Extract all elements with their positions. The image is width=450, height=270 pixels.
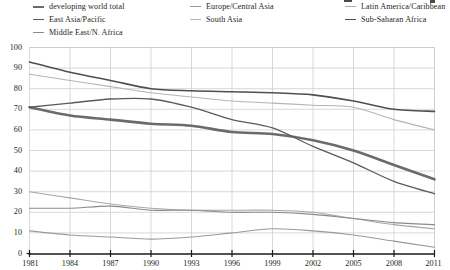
legend-item[interactable]: Latin America/Caribbean	[345, 0, 445, 13]
legend-swatch-icon	[33, 32, 44, 33]
legend-column-1: developing world total East Asia/Pacific…	[33, 0, 124, 39]
y-tick-label: 10	[2, 229, 22, 237]
legend-item-label: Sub-Saharan Africa	[361, 15, 426, 24]
y-tick-label: 100	[2, 44, 22, 52]
x-tick-label: 2005	[337, 260, 371, 268]
legend-item-label: Middle East/N. Africa	[49, 28, 123, 37]
line-chart: 1009080706050403020100 19811984198719901…	[0, 42, 443, 270]
y-tick-label: 0	[2, 250, 22, 258]
x-tick-label: 1990	[134, 260, 168, 268]
x-tick-label: 1993	[175, 260, 209, 268]
legend-item[interactable]: Middle East/N. Africa	[33, 26, 124, 39]
legend-item-label: Latin America/Caribbean	[361, 2, 445, 11]
x-tick-label: 1981	[14, 260, 48, 268]
y-tick-label: 30	[2, 188, 22, 196]
legend-swatch-icon	[33, 6, 44, 8]
legend-item-label: East Asia/Pacific	[49, 15, 106, 24]
x-tick-label: 1984	[53, 260, 87, 268]
legend-swatch-icon	[33, 19, 44, 20]
x-tick-label: 2008	[377, 260, 411, 268]
x-tick-label: 2002	[296, 260, 330, 268]
y-tick-label: 60	[2, 126, 22, 134]
x-tick-label: 1987	[94, 260, 128, 268]
chart-legend: developing world total East Asia/Pacific…	[0, 0, 443, 42]
legend-swatch-icon	[345, 19, 356, 20]
legend-item[interactable]: South Asia	[190, 13, 274, 26]
legend-item-label: South Asia	[206, 15, 242, 24]
plot-area	[0, 42, 443, 270]
y-tick-label: 20	[2, 208, 22, 216]
legend-swatch-icon	[345, 6, 356, 7]
y-tick-label: 80	[2, 85, 22, 93]
legend-item[interactable]: Sub-Saharan Africa	[345, 13, 445, 26]
legend-item[interactable]: East Asia/Pacific	[33, 13, 124, 26]
x-tick-label: 1999	[256, 260, 290, 268]
y-tick-label: 40	[2, 167, 22, 175]
y-tick-label: 70	[2, 105, 22, 113]
legend-swatch-icon	[190, 6, 201, 7]
legend-column-3: Latin America/Caribbean Sub-Saharan Afri…	[345, 0, 445, 26]
legend-item-label: Europe/Central Asia	[206, 2, 274, 11]
legend-item[interactable]: Europe/Central Asia	[190, 0, 274, 13]
x-tick-label: 1996	[215, 260, 249, 268]
legend-column-2: Europe/Central Asia South Asia	[190, 0, 274, 26]
legend-item-label: developing world total	[49, 2, 124, 11]
y-tick-label: 90	[2, 64, 22, 72]
y-tick-label: 50	[2, 147, 22, 155]
legend-swatch-icon	[190, 19, 201, 20]
x-tick-label: 2011	[417, 260, 450, 268]
legend-item[interactable]: developing world total	[33, 0, 124, 13]
